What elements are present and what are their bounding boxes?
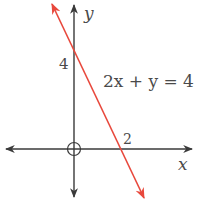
x-intercept-label: 2 bbox=[123, 131, 132, 147]
y-intercept-label: 4 bbox=[59, 55, 69, 73]
x-axis-label: x bbox=[178, 154, 188, 174]
y-axis-label: y bbox=[83, 3, 94, 23]
line-graph: y 4 2x + y = 4 2 x bbox=[0, 0, 199, 206]
equation-label: 2x + y = 4 bbox=[103, 71, 194, 91]
equation-line bbox=[52, 4, 144, 198]
